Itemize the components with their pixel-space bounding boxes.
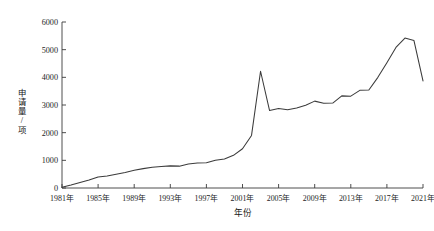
y-tick-label: 0 xyxy=(54,184,58,193)
x-tick-label: 2001年 xyxy=(231,193,255,203)
y-axis-title-char: 申 xyxy=(18,88,26,98)
y-axis-ticks xyxy=(62,22,66,188)
y-axis-title-char: 项 xyxy=(18,126,27,135)
y-axis-title-char: / xyxy=(21,116,24,125)
x-axis-title: 年份 xyxy=(234,207,252,218)
x-tick-label: 1985年 xyxy=(86,193,110,203)
y-axis-tick-labels: 0100020003000400050006000 xyxy=(42,18,58,193)
line-chart-figure: 0100020003000400050006000 1981年1985年1989… xyxy=(0,0,434,231)
x-tick-label: 1997年 xyxy=(195,193,219,203)
y-axis-title-char: 请 xyxy=(18,97,27,107)
data-series-line xyxy=(62,38,423,187)
y-tick-label: 3000 xyxy=(42,101,58,110)
x-axis-tick-labels: 1981年1985年1989年1993年1997年2001年2005年2009年… xyxy=(50,193,434,203)
x-tick-label: 2009年 xyxy=(303,193,327,203)
x-tick-label: 2013年 xyxy=(339,193,363,203)
chart-plot-area: 0100020003000400050006000 1981年1985年1989… xyxy=(0,0,434,231)
x-tick-label: 2017年 xyxy=(375,193,399,203)
x-tick-label: 1993年 xyxy=(158,193,182,203)
y-tick-label: 5000 xyxy=(42,46,58,55)
x-tick-label: 1989年 xyxy=(122,193,146,203)
y-tick-label: 6000 xyxy=(42,18,58,27)
y-tick-label: 2000 xyxy=(42,129,58,138)
y-tick-label: 1000 xyxy=(42,156,58,165)
x-tick-label: 2005年 xyxy=(267,193,291,203)
x-tick-label: 1981年 xyxy=(50,193,74,203)
y-axis-title: 申请量/项 xyxy=(18,88,27,135)
x-axis-ticks xyxy=(62,184,423,188)
x-tick-label: 2021年 xyxy=(411,193,434,203)
y-tick-label: 4000 xyxy=(42,73,58,82)
y-axis-title-char: 量 xyxy=(18,107,26,116)
